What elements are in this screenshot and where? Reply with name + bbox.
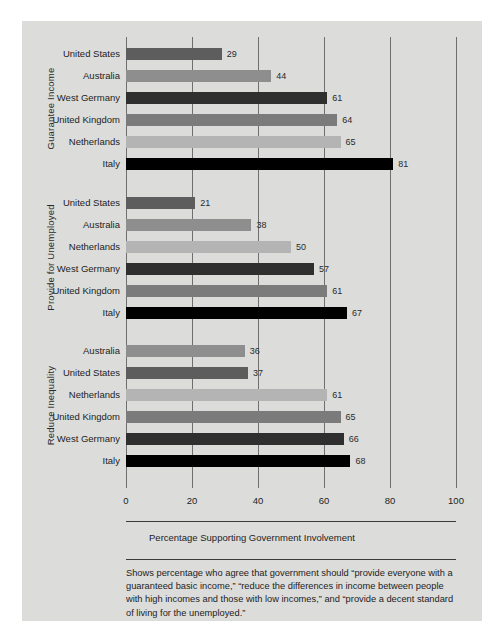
bar bbox=[126, 114, 337, 126]
bar bbox=[126, 48, 222, 60]
figure-panel: United States29Australia44West Germany61… bbox=[22, 21, 482, 621]
bar-value-label: 50 bbox=[296, 241, 306, 253]
category-label: Italy bbox=[103, 307, 120, 319]
x-tick-60 bbox=[324, 481, 325, 488]
category-label: Netherlands bbox=[69, 389, 120, 401]
category-label: Netherlands bbox=[69, 241, 120, 253]
caption-divider bbox=[126, 559, 456, 560]
x-axis-title: Percentage Supporting Government Involve… bbox=[22, 532, 482, 543]
bar bbox=[126, 285, 327, 297]
category-label: West Germany bbox=[57, 263, 120, 275]
bar bbox=[126, 367, 248, 379]
bar-value-label: 61 bbox=[332, 389, 342, 401]
category-label: Italy bbox=[103, 158, 120, 170]
x-tick-label-60: 60 bbox=[304, 495, 344, 506]
bar-value-label: 61 bbox=[332, 92, 342, 104]
bar bbox=[126, 219, 251, 231]
bar bbox=[126, 241, 291, 253]
bar bbox=[126, 455, 350, 467]
bar-value-label: 38 bbox=[256, 219, 266, 231]
category-label: Australia bbox=[83, 345, 120, 357]
bar bbox=[126, 345, 245, 357]
bar-value-label: 57 bbox=[319, 263, 329, 275]
bar bbox=[126, 263, 314, 275]
bar-value-label: 67 bbox=[352, 307, 362, 319]
x-tick-label-40: 40 bbox=[238, 495, 278, 506]
figure-caption: Shows percentage who agree that governme… bbox=[126, 567, 462, 620]
category-label: United States bbox=[63, 197, 120, 209]
bar-value-label: 65 bbox=[346, 136, 356, 148]
bar bbox=[126, 136, 341, 148]
bar bbox=[126, 197, 195, 209]
category-label: United Kingdom bbox=[52, 114, 120, 126]
x-tick-label-20: 20 bbox=[172, 495, 212, 506]
bar-value-label: 68 bbox=[355, 455, 365, 467]
bar bbox=[126, 389, 327, 401]
bar-value-label: 29 bbox=[227, 48, 237, 60]
category-label: United Kingdom bbox=[52, 285, 120, 297]
bar-value-label: 66 bbox=[349, 433, 359, 445]
category-label: West Germany bbox=[57, 92, 120, 104]
gridline-100 bbox=[456, 37, 457, 481]
x-tick-0 bbox=[126, 481, 127, 488]
bar bbox=[126, 433, 344, 445]
category-label: United States bbox=[63, 367, 120, 379]
axis-baseline bbox=[126, 521, 456, 522]
bar bbox=[126, 92, 327, 104]
bar-value-label: 65 bbox=[346, 411, 356, 423]
category-label: Italy bbox=[103, 455, 120, 467]
bar-value-label: 44 bbox=[276, 70, 286, 82]
category-label: United States bbox=[63, 48, 120, 60]
x-tick-20 bbox=[192, 481, 193, 488]
category-label: Australia bbox=[83, 219, 120, 231]
x-tick-80 bbox=[390, 481, 391, 488]
x-tick-label-80: 80 bbox=[370, 495, 410, 506]
bar bbox=[126, 158, 393, 170]
category-label: United Kingdom bbox=[52, 411, 120, 423]
category-label: Australia bbox=[83, 70, 120, 82]
bar-value-label: 61 bbox=[332, 285, 342, 297]
x-tick-100 bbox=[456, 481, 457, 488]
bar-value-label: 36 bbox=[250, 345, 260, 357]
bar bbox=[126, 70, 271, 82]
bar bbox=[126, 411, 341, 423]
bar-value-label: 64 bbox=[342, 114, 352, 126]
category-label: West Germany bbox=[57, 433, 120, 445]
bar-value-label: 37 bbox=[253, 367, 263, 379]
x-tick-label-100: 100 bbox=[436, 495, 476, 506]
x-tick-40 bbox=[258, 481, 259, 488]
group-axis-label: Reduce Inequality bbox=[45, 316, 56, 496]
gridline-80 bbox=[390, 37, 391, 481]
bar bbox=[126, 307, 347, 319]
plot-area: United States29Australia44West Germany61… bbox=[22, 21, 482, 491]
x-tick-label-0: 0 bbox=[106, 495, 146, 506]
bar-value-label: 81 bbox=[398, 158, 408, 170]
bar-value-label: 21 bbox=[200, 197, 210, 209]
category-label: Netherlands bbox=[69, 136, 120, 148]
